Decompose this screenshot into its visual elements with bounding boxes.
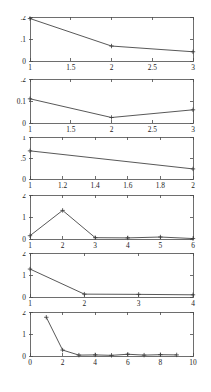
x-tick-label: 1 (28, 63, 32, 72)
x-tick-label: 1.2 (58, 181, 68, 190)
x-tick-label: 3 (93, 241, 97, 250)
x-tick-label: 8 (159, 358, 163, 367)
y-tick-label: .2 (20, 16, 26, 22)
data-point-marker (44, 315, 48, 319)
y-tick-label: .5 (20, 154, 26, 163)
y-tick-label: 0 (22, 57, 26, 66)
y-tick-label: 2 (22, 311, 26, 317)
x-tick-label: 2 (61, 358, 65, 367)
data-point-marker (191, 50, 195, 54)
data-series-line (46, 317, 176, 355)
data-point-marker (126, 236, 130, 240)
data-series-line (30, 269, 193, 295)
x-tick-label: 2.5 (148, 125, 158, 134)
y-tick-label: 1 (22, 136, 26, 142)
x-tick-label: 2 (110, 125, 114, 134)
x-tick-label: 6 (126, 358, 130, 367)
y-tick-label: 1 (22, 330, 26, 339)
y-tick-label: 2 (22, 252, 26, 258)
y-tick-label: 1 (22, 271, 26, 280)
x-tick-label: 1 (28, 241, 32, 250)
x-tick-label: 3 (191, 125, 195, 134)
x-tick-label: 5 (159, 241, 163, 250)
chart-panel-6: 0246810012 (0, 311, 211, 373)
data-point-marker (142, 353, 146, 357)
data-point-marker (191, 293, 195, 297)
chart-panel-3: 11.21.41.61.820.51 (0, 136, 211, 194)
x-tick-label: 4 (126, 241, 130, 250)
x-tick-label: 2 (110, 63, 114, 72)
x-tick-label: 2 (61, 241, 65, 250)
y-tick-label: 0 (22, 175, 26, 184)
y-tick-label: 1 (22, 213, 26, 222)
data-point-marker (77, 353, 81, 357)
x-tick-label: 4 (93, 358, 97, 367)
y-tick-label: 0 (22, 293, 26, 302)
y-tick-label: 2 (22, 194, 26, 200)
data-point-marker (28, 267, 32, 271)
y-tick-label: 0.1 (17, 97, 27, 106)
data-point-marker (28, 97, 32, 101)
x-tick-label: 1.5 (66, 125, 76, 134)
data-point-marker (28, 149, 32, 153)
data-point-marker (109, 353, 113, 357)
data-point-marker (82, 292, 86, 296)
x-tick-label: 1.4 (91, 181, 101, 190)
plot-frame (30, 137, 193, 179)
x-tick-label: 10 (189, 358, 197, 367)
x-tick-label: 1.5 (66, 63, 76, 72)
chart-panel-1: 11.522.530.1.2 (0, 16, 211, 78)
y-tick-label: .2 (20, 78, 26, 84)
data-point-marker (158, 235, 162, 239)
x-tick-label: 2 (191, 181, 195, 190)
x-tick-label: 1 (28, 299, 32, 308)
chart-panel-2: 11.522.5300.1.2 (0, 78, 211, 136)
data-series-line (30, 210, 193, 238)
x-tick-label: 0 (28, 358, 32, 367)
plot-frame (30, 17, 193, 61)
x-tick-label: 1.8 (156, 181, 166, 190)
x-tick-label: 3 (137, 299, 141, 308)
y-tick-label: 0 (22, 352, 26, 361)
data-point-marker (93, 353, 97, 357)
data-point-marker (191, 108, 195, 112)
data-point-marker (109, 115, 113, 119)
data-point-marker (60, 348, 64, 352)
x-tick-label: 1.6 (123, 181, 133, 190)
y-tick-label: 0 (22, 235, 26, 244)
y-tick-label: 0 (22, 119, 26, 128)
data-series-line (30, 99, 193, 118)
x-tick-label: 6 (191, 241, 195, 250)
multi-panel-line-chart-figure: 11.522.530.1.211.522.5300.1.211.21.41.61… (0, 0, 211, 392)
x-tick-label: 2.5 (148, 63, 158, 72)
x-tick-label: 1 (28, 125, 32, 134)
data-series-line (30, 151, 193, 169)
data-point-marker (109, 44, 113, 48)
x-tick-label: 1 (28, 181, 32, 190)
chart-panel-4: 123456012 (0, 194, 211, 252)
x-tick-label: 2 (82, 299, 86, 308)
plot-frame (30, 253, 193, 297)
y-tick-label: .1 (20, 35, 26, 44)
data-point-marker (175, 353, 179, 357)
chart-panel-5: 1234012 (0, 252, 211, 311)
x-tick-label: 4 (191, 299, 195, 308)
data-point-marker (191, 167, 195, 171)
data-point-marker (136, 292, 140, 296)
x-tick-label: 3 (191, 63, 195, 72)
